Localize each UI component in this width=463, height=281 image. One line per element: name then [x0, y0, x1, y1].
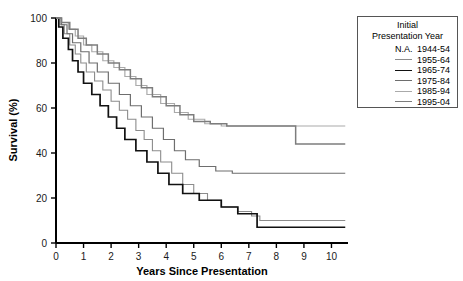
x-tick-label: 6 — [219, 251, 225, 262]
legend-item-1955-64: 1955-64 — [358, 55, 450, 66]
x-tick-label: 4 — [163, 251, 169, 262]
x-tick-label: 7 — [246, 251, 252, 262]
y-tick-label: 0 — [41, 238, 47, 249]
legend-label: 1975-84 — [417, 76, 450, 86]
y-axis-ticks: 020406080100 — [30, 13, 56, 249]
x-axis-ticks: 012345678910 — [53, 243, 337, 262]
x-tick-label: 3 — [136, 251, 142, 262]
legend-item-1965-74: 1965-74 — [358, 65, 450, 76]
legend-item-1944-54: N.A.1944-54 — [358, 44, 450, 55]
legend-label: 1985-94 — [417, 86, 450, 96]
x-tick-label: 5 — [191, 251, 197, 262]
x-tick-label: 2 — [108, 251, 114, 262]
y-axis-label: Survival (%) — [7, 98, 19, 161]
legend-line-swatch — [395, 101, 412, 102]
legend-item-1985-94: 1985-94 — [358, 86, 450, 97]
legend-line-swatch — [395, 80, 412, 81]
survival-curves — [56, 18, 345, 227]
legend-line-swatch — [395, 59, 412, 60]
legend-items: N.A.1944-541955-641965-741975-841985-941… — [358, 44, 457, 107]
y-tick-label: 20 — [36, 193, 48, 204]
legend-item-1975-84: 1975-84 — [358, 76, 450, 87]
legend-label: 1995-04 — [417, 97, 450, 107]
legend-item-1995-04: 1995-04 — [358, 97, 450, 108]
y-tick-label: 60 — [36, 103, 48, 114]
legend-line-swatch — [395, 70, 412, 71]
legend-title: Initial Presentation Year — [358, 17, 457, 41]
x-tick-label: 0 — [53, 251, 59, 262]
legend-title-line1: Initial — [358, 20, 457, 31]
x-tick-label: 1 — [81, 251, 87, 262]
x-tick-label: 8 — [274, 251, 280, 262]
legend: Initial Presentation Year N.A.1944-54195… — [357, 16, 458, 108]
y-tick-label: 40 — [36, 148, 48, 159]
legend-label: 1965-74 — [417, 65, 450, 75]
survival-chart-figure: 020406080100 012345678910 Survival (%) Y… — [0, 0, 463, 281]
legend-marker-not-available: N.A. — [395, 44, 412, 54]
x-tick-label: 10 — [326, 251, 338, 262]
y-tick-label: 100 — [30, 13, 47, 24]
x-tick-label: 9 — [301, 251, 307, 262]
y-tick-label: 80 — [36, 58, 48, 69]
legend-line-swatch — [395, 91, 412, 92]
x-axis-label: Years Since Presentation — [136, 265, 268, 277]
legend-title-line2: Presentation Year — [358, 31, 457, 42]
survival-curve-1965-74 — [56, 18, 345, 227]
legend-label: 1955-64 — [417, 55, 450, 65]
legend-label: 1944-54 — [417, 44, 450, 54]
